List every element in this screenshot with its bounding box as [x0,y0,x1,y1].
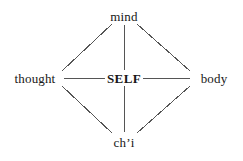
self-diamond-diagram: mindthoughtSELFbodych’i [0,0,243,161]
edge-chi-body [137,86,190,133]
edge-thought-chi [62,86,112,133]
edge-thought-mind [62,24,112,71]
node-label-thought: thought [13,72,58,85]
node-label-self: SELF [105,72,143,85]
node-label-body: body [199,72,230,85]
edge-mind-body [137,24,190,71]
node-label-chi: ch’i [112,136,137,149]
node-label-mind: mind [108,10,139,23]
